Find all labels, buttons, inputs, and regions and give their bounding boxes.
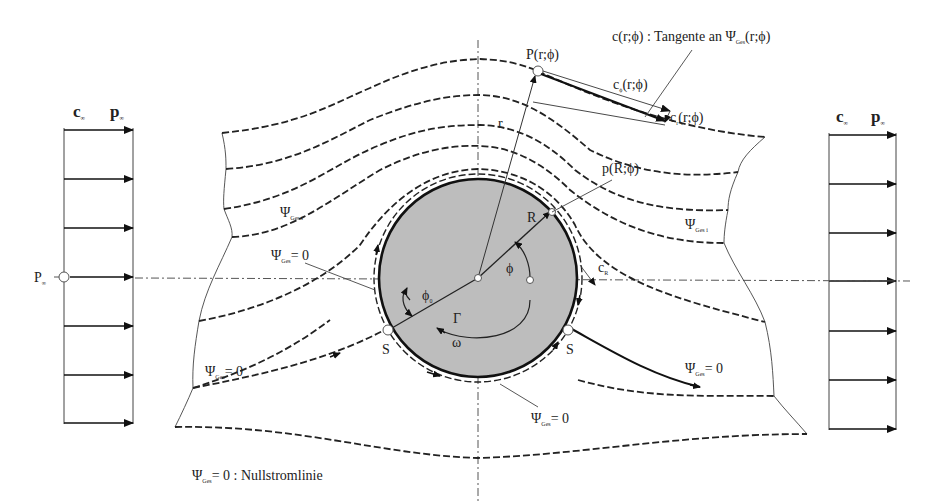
stagnation-right-label: S — [566, 342, 574, 357]
stagnation-left-label: S — [382, 342, 390, 357]
legend-nullstromlinie: ΨGes= 0 : Nullstromlinie — [192, 468, 323, 484]
psi0-bottom-label: ΨGes= 0 — [531, 411, 569, 427]
psi-i-right-label: ΨGes i — [685, 217, 708, 233]
left-velocity-profile — [54, 128, 133, 424]
psi0-lower-right-label: ΨGes= 0 — [685, 361, 723, 377]
c-r-label: cr(r;ϕ) — [670, 110, 704, 126]
left-pressure-label: p∞ — [110, 102, 124, 121]
diagram-canvas: c∞ p∞ P∞ c∞ p∞ — [0, 0, 935, 504]
phi-label: ϕ — [506, 261, 513, 276]
psi-i-left-label: ΨGes i — [280, 205, 303, 221]
omega-label: ω — [452, 335, 461, 350]
psi0-lower-left-label: ΨGes= 0 — [205, 364, 243, 380]
p-infinity-point-label: P∞ — [34, 270, 46, 286]
R-label: R — [527, 210, 537, 225]
left-boundary — [175, 133, 232, 427]
tangent-leader — [645, 50, 692, 117]
psi0-bottom-leader — [500, 384, 538, 407]
gamma-label: Γ — [453, 311, 461, 326]
r-label: r — [498, 116, 503, 131]
stagnation-point-right — [563, 325, 573, 335]
right-velocity-label: c∞ — [836, 107, 849, 126]
c-phi-vector — [543, 71, 670, 111]
tangent-note: c(r;ϕ) : Tangente an ΨGes(r;ϕ) — [612, 29, 771, 45]
psi0-upper-leader — [305, 263, 375, 290]
left-velocity-label: c∞ — [73, 102, 86, 121]
p-R-leader — [552, 180, 612, 212]
c-phi-label: cϕ(r;ϕ) — [613, 77, 648, 93]
stagnation-point-left — [383, 325, 393, 335]
point-P-label: P(r;ϕ) — [526, 47, 559, 63]
phi-reference-point — [527, 277, 534, 284]
right-pressure-label: p∞ — [871, 107, 885, 126]
p-R-label: p(R;ϕ) — [602, 161, 639, 177]
right-boundary — [724, 137, 807, 434]
psi0-upper-label: ΨGes= 0 — [271, 248, 309, 264]
cylinder-center — [475, 275, 482, 282]
right-velocity-profile — [829, 133, 896, 430]
